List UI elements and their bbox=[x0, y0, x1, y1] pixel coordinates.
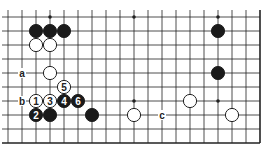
star-point bbox=[216, 15, 220, 19]
star-point bbox=[132, 99, 136, 103]
marker-a: a bbox=[19, 68, 25, 79]
black-stone bbox=[211, 66, 224, 79]
white-stone bbox=[183, 94, 196, 107]
black-stone bbox=[43, 24, 56, 37]
white-stone bbox=[225, 108, 238, 121]
move-number: 1 bbox=[33, 96, 39, 107]
star-point bbox=[132, 15, 136, 19]
move-number: 6 bbox=[75, 96, 81, 107]
white-stone bbox=[127, 108, 140, 121]
star-point bbox=[48, 15, 52, 19]
move-number: 2 bbox=[33, 110, 39, 121]
white-stone bbox=[29, 38, 42, 51]
star-point bbox=[216, 99, 220, 103]
marker-c: c bbox=[159, 110, 165, 121]
black-stone bbox=[29, 24, 42, 37]
move-number: 4 bbox=[61, 96, 67, 107]
white-stone bbox=[43, 38, 56, 51]
white-stone bbox=[43, 66, 56, 79]
black-stone bbox=[85, 108, 98, 121]
move-number: 3 bbox=[47, 96, 53, 107]
black-stone bbox=[57, 24, 70, 37]
go-board: abc 513462 bbox=[0, 0, 267, 149]
marker-b: b bbox=[19, 96, 25, 107]
black-stone bbox=[211, 24, 224, 37]
move-number: 5 bbox=[61, 82, 67, 93]
black-stone bbox=[43, 108, 56, 121]
